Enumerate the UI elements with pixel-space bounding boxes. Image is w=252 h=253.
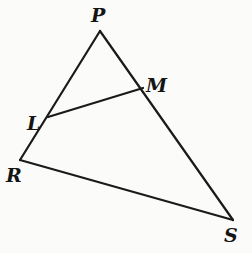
label-L: L [26, 112, 40, 134]
label-S: S [224, 224, 238, 246]
triangle-diagram: P M L R S [0, 0, 252, 253]
segment-RS [20, 160, 233, 220]
label-P: P [90, 4, 106, 26]
segment-PR [20, 31, 100, 160]
label-R: R [5, 164, 22, 186]
label-M: M [145, 74, 168, 96]
segment-PS [100, 31, 233, 220]
